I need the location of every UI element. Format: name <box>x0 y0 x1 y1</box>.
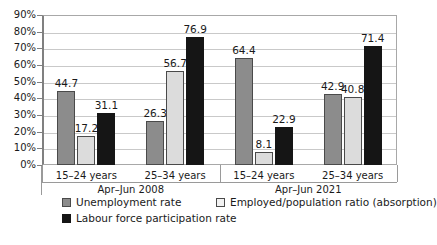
bar <box>57 91 75 166</box>
bar <box>275 127 293 165</box>
legend-swatch-absorption-icon <box>216 198 225 207</box>
x-axis-category-label: 25–34 years <box>322 170 383 181</box>
bar <box>186 37 204 165</box>
y-axis-tick-label: 60% <box>14 60 36 70</box>
legend-item-participation[interactable]: Labour force participation rate <box>62 212 236 224</box>
bar <box>97 113 115 165</box>
x-axis-group-label: Apr–Jun 2021 <box>275 184 342 195</box>
y-axis-tick-label: 0% <box>20 160 36 170</box>
legend-row-1: Unemployment rate Employed/population ra… <box>62 196 406 212</box>
legend-swatch-unemployment-icon <box>62 198 71 207</box>
x-axis-category-label: 25–34 years <box>145 170 206 181</box>
x-axis-group-underline <box>220 182 398 183</box>
x-axis-category-label: 15–24 years <box>56 170 117 181</box>
bar-value-label: 44.7 <box>55 78 78 89</box>
bar-value-label: 76.9 <box>183 24 206 35</box>
legend-label-unemployment: Unemployment rate <box>76 196 181 208</box>
y-axis-tick <box>37 82 42 83</box>
legend-item-unemployment-rate[interactable]: Unemployment rate <box>62 196 181 208</box>
y-axis-tick <box>37 98 42 99</box>
bar <box>364 46 382 165</box>
bar <box>146 121 164 165</box>
bar-value-label: 40.8 <box>341 84 364 95</box>
y-axis-tick-label: 70% <box>14 43 36 53</box>
bar-value-label: 22.9 <box>272 114 295 125</box>
bar-value-label: 71.4 <box>361 33 384 44</box>
y-axis-tick-label: 10% <box>14 143 36 153</box>
y-axis-tick-label: 40% <box>14 93 36 103</box>
y-axis-tick <box>37 32 42 33</box>
y-axis-tick <box>37 165 42 166</box>
legend-item-absorption[interactable]: Employed/population ratio (absorption) <box>216 196 437 208</box>
bar <box>166 71 184 166</box>
y-axis-tick-label: 50% <box>14 77 36 87</box>
bar-value-label: 31.1 <box>95 100 118 111</box>
legend-swatch-participation-icon <box>62 214 71 223</box>
legend-row-2: Labour force participation rate <box>62 212 406 228</box>
legend-label-participation: Labour force participation rate <box>76 212 236 224</box>
x-axis-group-separator <box>397 165 398 182</box>
chart-legend: Unemployment rate Employed/population ra… <box>62 196 406 228</box>
y-axis-tick-label: 20% <box>14 127 36 137</box>
y-axis-tick-label: 80% <box>14 27 36 37</box>
y-axis-tick <box>37 48 42 49</box>
bars-layer: 44.717.231.126.356.776.964.48.122.942.94… <box>42 15 397 165</box>
x-axis-group-separator <box>42 165 43 182</box>
bar <box>77 136 95 165</box>
bar-value-label: 8.1 <box>256 139 273 150</box>
x-axis-group-underline <box>42 182 220 183</box>
x-axis-category-label: 15–24 years <box>233 170 294 181</box>
legend-label-absorption: Employed/population ratio (absorption) <box>230 196 437 208</box>
x-axis-group-separator <box>220 165 221 182</box>
bar <box>255 152 273 166</box>
bar-value-label: 26.3 <box>143 108 166 119</box>
bar <box>344 97 362 165</box>
y-axis-tick-label: 30% <box>14 110 36 120</box>
y-axis-tick <box>37 132 42 133</box>
bar <box>235 58 253 165</box>
y-axis-tick <box>37 15 42 16</box>
y-axis-tick <box>37 115 42 116</box>
bar-value-label: 56.7 <box>163 58 186 69</box>
y-axis-tick-label: 90% <box>14 10 36 20</box>
y-axis-tick <box>37 148 42 149</box>
y-axis-tick <box>37 65 42 66</box>
x-axis-group-label: Apr–Jun 2008 <box>97 184 164 195</box>
bar-value-label: 17.2 <box>75 123 98 134</box>
y-axis: 0%10%20%30%40%50%60%70%80%90% <box>0 15 36 165</box>
bar <box>324 94 342 166</box>
bar-value-label: 64.4 <box>232 45 255 56</box>
